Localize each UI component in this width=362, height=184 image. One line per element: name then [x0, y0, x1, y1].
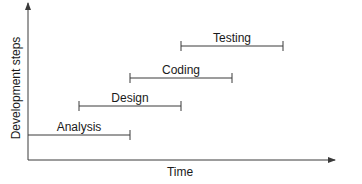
phase-analysis: Analysis [28, 120, 130, 140]
waterfall-diagram: Development steps Time AnalysisDesignCod… [0, 0, 362, 184]
phase-bars: AnalysisDesignCodingTesting [28, 31, 283, 140]
phase-label: Coding [162, 63, 200, 77]
phase-coding: Coding [130, 63, 232, 83]
y-axis-label: Development steps [9, 37, 23, 140]
phase-design: Design [79, 91, 181, 111]
phase-label: Testing [213, 31, 251, 45]
phase-label: Design [111, 91, 148, 105]
phase-testing: Testing [181, 31, 283, 51]
phase-label: Analysis [57, 120, 102, 134]
x-axis-label: Time [167, 165, 194, 179]
